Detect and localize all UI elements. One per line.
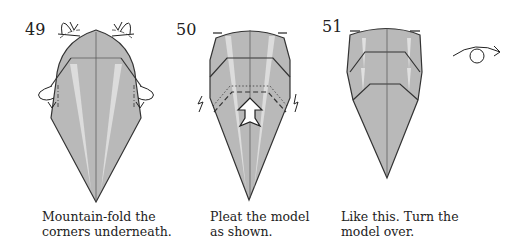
caption-line-1: Like this. Turn the (341, 209, 459, 224)
step-49-model (51, 30, 141, 202)
step-51-caption: Like this. Turn the model over. (341, 209, 459, 239)
turn-over-icon (453, 46, 500, 63)
pleat-zigzag-right-icon (294, 94, 298, 112)
caption-line-1: Mountain-fold the (42, 209, 172, 224)
step-number-51: 51 (322, 17, 342, 36)
step-number-50: 50 (176, 20, 196, 39)
caption-line-2: corners underneath. (42, 224, 172, 239)
step-50-caption: Pleat the model as shown. (210, 209, 309, 239)
step-49-caption: Mountain-fold the corners underneath. (42, 209, 172, 239)
caption-line-2: as shown. (210, 224, 309, 239)
step-number-49: 49 (25, 20, 45, 39)
pleat-zigzag-left-icon (198, 96, 203, 112)
caption-line-2: model over. (341, 224, 459, 239)
step-51-model (347, 28, 422, 178)
caption-line-1: Pleat the model (210, 209, 309, 224)
